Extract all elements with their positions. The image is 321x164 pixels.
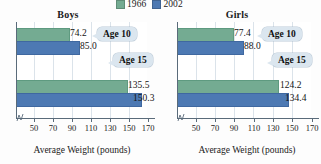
y-axis-line (16, 22, 17, 119)
y-axis-line (177, 22, 178, 119)
x-axis-line (16, 118, 155, 119)
x-tick-label: 170 (301, 123, 321, 133)
bar-boys-age10-2002 (16, 41, 80, 55)
chart-figure: 1966 2002 Boys (0, 0, 321, 164)
x-tick (72, 118, 73, 122)
callout-tail-icon (267, 60, 273, 66)
panel-girls: Girls 50 70 (161, 0, 321, 164)
x-tick (273, 118, 274, 122)
x-tick (196, 118, 197, 122)
panel-title: Boys (0, 9, 148, 20)
x-tick-label: 90 (223, 123, 245, 133)
bar-value-label: 74.2 (70, 28, 87, 38)
x-tick (292, 118, 293, 122)
x-tick (148, 118, 149, 122)
bar-value-label: 150.3 (133, 93, 154, 103)
bar-value-label: 134.4 (285, 93, 306, 103)
x-tick (34, 118, 35, 122)
x-tick (234, 118, 235, 122)
bar-value-label: 88.0 (244, 41, 261, 51)
axis-break-icon (177, 112, 187, 122)
x-tick-label: 170 (137, 123, 159, 133)
x-tick (129, 118, 130, 122)
callout-tail-icon (108, 60, 114, 66)
x-tick (53, 118, 54, 122)
x-tick (110, 118, 111, 122)
callout-label: Age 15 (119, 55, 147, 65)
x-tick (312, 118, 313, 122)
bar-boys-age15-1966 (16, 80, 128, 94)
bar-boys-age10-1966 (16, 28, 70, 42)
x-tick (254, 118, 255, 122)
bar-boys-age15-2002 (16, 93, 142, 107)
callout-tail-icon (92, 33, 98, 39)
x-axis-line (177, 118, 319, 119)
x-axis-label: Average Weight (pounds) (167, 145, 321, 155)
callout-age-15: Age 15 (113, 53, 153, 67)
bar-girls-age15-2002 (177, 93, 289, 107)
callout-label: Age 10 (103, 29, 131, 39)
panel-boys: Boys 50 70 (0, 0, 160, 164)
bar-value-label: 85.0 (80, 41, 97, 51)
callout-age-10: Age 10 (262, 27, 302, 41)
x-tick-label: 150 (281, 123, 303, 133)
callout-label: Age 15 (278, 55, 306, 65)
bar-girls-age10-2002 (177, 41, 244, 55)
bar-girls-age15-1966 (177, 80, 279, 94)
callout-age-15: Age 15 (272, 53, 312, 67)
callout-tail-icon (257, 33, 263, 39)
callout-label: Age 10 (268, 29, 296, 39)
x-tick (91, 118, 92, 122)
x-axis-label: Average Weight (pounds) (2, 145, 162, 155)
bar-value-label: 135.5 (128, 80, 149, 90)
bar-value-label: 124.2 (280, 80, 301, 90)
bar-value-label: 77.4 (234, 28, 251, 38)
x-tick (215, 118, 216, 122)
panel-title: Girls (157, 9, 317, 20)
axis-break-icon (16, 112, 26, 122)
callout-age-10: Age 10 (97, 27, 137, 41)
bar-girls-age10-1966 (177, 28, 234, 42)
